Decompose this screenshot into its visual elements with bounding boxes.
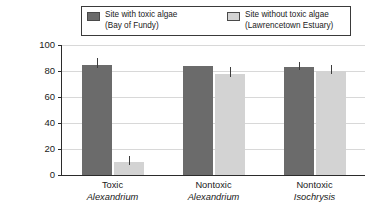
y-tick-label: 20	[44, 143, 55, 154]
bar	[284, 67, 314, 175]
legend-swatch-dark	[87, 12, 100, 21]
legend-label-nontoxic-site-main: Site without toxic algae	[245, 10, 329, 19]
error-bar	[129, 156, 130, 166]
error-bar	[331, 65, 332, 75]
gridline	[62, 45, 365, 46]
x-category-label: NontoxicIsochrysis	[264, 180, 365, 203]
y-tick-label: 80	[44, 65, 55, 76]
bar-chart-figure: Site with toxic algae (Bay of Fundy) Sit…	[0, 0, 376, 220]
x-category-label-line2: Isochrysis	[264, 192, 365, 204]
x-category-label-line1: Nontoxic	[163, 180, 264, 192]
y-tick-mark	[58, 175, 62, 176]
y-tick-label: 60	[44, 91, 55, 102]
y-tick-mark	[58, 71, 62, 72]
legend-entry-nontoxic-site: Site without toxic algae (Lawrencetown E…	[227, 10, 333, 31]
legend-swatch-light	[227, 12, 240, 21]
x-category-label-line1: Nontoxic	[264, 180, 365, 192]
x-category-label: ToxicAlexandrium	[62, 180, 163, 203]
x-category-label: NontoxicAlexandrium	[163, 180, 264, 203]
error-bar	[299, 62, 300, 70]
y-tick-mark	[58, 97, 62, 98]
chart-legend: Site with toxic algae (Bay of Fundy) Sit…	[81, 6, 351, 36]
y-tick-mark	[58, 123, 62, 124]
x-category-label-line2: Alexandrium	[62, 192, 163, 204]
legend-label-toxic-site: Site with toxic algae (Bay of Fundy)	[105, 10, 177, 31]
bar	[82, 65, 112, 176]
y-tick-label: 40	[44, 117, 55, 128]
legend-label-nontoxic-site: Site without toxic algae (Lawrencetown E…	[245, 10, 333, 31]
y-tick-label: 0	[50, 169, 55, 180]
y-tick-mark	[58, 149, 62, 150]
x-category-label-line2: Alexandrium	[163, 192, 264, 204]
bar	[215, 74, 245, 175]
error-bar	[230, 67, 231, 77]
legend-label-toxic-site-main: Site with toxic algae	[105, 10, 177, 19]
legend-label-toxic-site-sub: (Bay of Fundy)	[105, 21, 177, 32]
legend-entry-toxic-site: Site with toxic algae (Bay of Fundy)	[87, 10, 227, 31]
x-axis-line	[62, 175, 365, 176]
plot-area: 020406080100	[62, 45, 365, 175]
y-tick-mark	[58, 45, 62, 46]
bar	[183, 66, 213, 175]
x-category-label-line1: Toxic	[62, 180, 163, 192]
bar	[316, 71, 346, 175]
y-tick-label: 100	[39, 39, 55, 50]
legend-label-nontoxic-site-sub: (Lawrencetown Estuary)	[245, 21, 333, 32]
error-bar	[97, 58, 98, 68]
